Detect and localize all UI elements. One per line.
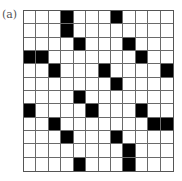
grid-cell-white (36, 118, 48, 131)
grid-cell-white (24, 131, 36, 144)
grid-cell-black (111, 131, 123, 144)
grid-cell-white (123, 104, 135, 117)
grid-cell-white (99, 38, 111, 51)
grid-cell-white (74, 131, 86, 144)
grid-cell-white (61, 118, 73, 131)
grid-cell-white (136, 158, 148, 171)
grid-cell-white (161, 144, 173, 157)
grid-cell-white (49, 144, 61, 157)
grid-cell-white (161, 11, 173, 24)
grid-cell-white (123, 91, 135, 104)
grid-cell-white (161, 91, 173, 104)
grid-cell-black (123, 38, 135, 51)
grid-cell-white (123, 11, 135, 24)
grid-cell-white (61, 104, 73, 117)
grid-cell-black (74, 91, 86, 104)
grid-cell-white (86, 118, 98, 131)
grid-cell-white (24, 91, 36, 104)
grid-cell-white (123, 51, 135, 64)
grid-cell-white (148, 104, 160, 117)
grid-cell-white (61, 158, 73, 171)
grid-cell-white (161, 38, 173, 51)
grid-cell-white (74, 144, 86, 157)
grid-cell-black (161, 64, 173, 77)
grid-cell-white (24, 11, 36, 24)
grid-cell-white (36, 24, 48, 37)
crossword-grid (23, 10, 174, 172)
grid-cell-white (86, 158, 98, 171)
grid-cell-white (148, 78, 160, 91)
grid-cell-white (86, 51, 98, 64)
grid-cell-white (148, 38, 160, 51)
grid-cell-white (49, 24, 61, 37)
grid-cell-white (161, 51, 173, 64)
grid-cell-white (99, 144, 111, 157)
grid-cell-white (74, 24, 86, 37)
grid-cell-white (148, 64, 160, 77)
grid-cell-white (24, 78, 36, 91)
grid-cell-white (36, 64, 48, 77)
grid-cell-white (123, 64, 135, 77)
grid-cell-black (36, 51, 48, 64)
grid-cell-white (74, 11, 86, 24)
grid-cell-white (36, 78, 48, 91)
grid-cell-white (111, 118, 123, 131)
grid-cell-white (136, 64, 148, 77)
grid-cell-white (136, 118, 148, 131)
grid-cell-white (136, 11, 148, 24)
grid-cell-white (86, 144, 98, 157)
grid-cell-black (123, 144, 135, 157)
grid-cell-black (61, 11, 73, 24)
grid-cell-white (123, 118, 135, 131)
grid-cell-white (49, 78, 61, 91)
grid-cell-white (161, 78, 173, 91)
grid-cell-white (99, 78, 111, 91)
grid-cell-white (148, 51, 160, 64)
grid-cell-white (36, 38, 48, 51)
grid-cell-white (148, 144, 160, 157)
grid-cell-white (99, 104, 111, 117)
grid-cell-white (61, 38, 73, 51)
grid-cell-black (24, 104, 36, 117)
grid-cell-white (123, 24, 135, 37)
grid-cell-white (49, 158, 61, 171)
grid-cell-white (99, 51, 111, 64)
grid-cell-white (49, 131, 61, 144)
grid-cell-white (61, 78, 73, 91)
figure-label: (a) (2, 9, 17, 21)
grid-cell-white (49, 51, 61, 64)
grid-cell-white (111, 144, 123, 157)
grid-cell-white (111, 91, 123, 104)
grid-cell-white (136, 38, 148, 51)
grid-cell-white (61, 64, 73, 77)
grid-cell-white (148, 131, 160, 144)
grid-cell-white (111, 158, 123, 171)
grid-cell-black (49, 64, 61, 77)
grid-cell-white (111, 104, 123, 117)
grid-cell-white (36, 131, 48, 144)
grid-cell-white (61, 91, 73, 104)
grid-cell-white (161, 24, 173, 37)
grid-cell-white (49, 104, 61, 117)
grid-cell-black (49, 118, 61, 131)
grid-cell-black (123, 158, 135, 171)
grid-cell-white (136, 91, 148, 104)
grid-cell-white (136, 144, 148, 157)
grid-cell-white (99, 158, 111, 171)
grid-cell-black (74, 158, 86, 171)
grid-cell-white (86, 64, 98, 77)
grid-cell-white (49, 38, 61, 51)
grid-cell-white (61, 51, 73, 64)
grid-cell-white (136, 131, 148, 144)
grid-cell-black (24, 51, 36, 64)
grid-cell-black (86, 104, 98, 117)
grid-cell-black (111, 11, 123, 24)
grid-cell-white (161, 104, 173, 117)
grid-cell-white (49, 11, 61, 24)
grid-cell-white (36, 144, 48, 157)
grid-cell-white (99, 24, 111, 37)
grid-cell-white (36, 91, 48, 104)
grid-cell-white (111, 38, 123, 51)
grid-cell-white (36, 11, 48, 24)
grid-cell-white (161, 158, 173, 171)
